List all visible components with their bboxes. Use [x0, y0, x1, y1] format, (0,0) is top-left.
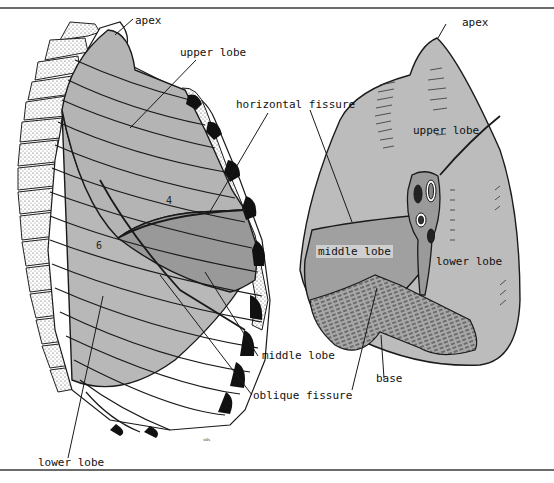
label-horizontal-fissure: horizontal fissure — [236, 98, 355, 111]
label-middle-lobe-left: middle lobe — [262, 349, 335, 362]
label-upper-lobe-left: upper lobe — [180, 46, 246, 59]
label-rib-6: 6 — [96, 240, 102, 251]
label-apex-left: apex — [135, 14, 162, 27]
label-middle-lobe-right: middle lobe — [316, 245, 393, 258]
label-upper-lobe-right: upper lobe — [413, 124, 479, 137]
label-lower-lobe-right: lower lobe — [436, 255, 502, 268]
label-base: base — [376, 372, 403, 385]
label-lower-lobe-left: lower lobe — [38, 456, 104, 469]
signature: vds — [203, 437, 210, 442]
label-apex-right: apex — [462, 16, 489, 29]
lateral-lung-illustration: vds — [0, 0, 554, 483]
label-oblique-fissure: oblique fissure — [253, 389, 352, 402]
label-rib-4: 4 — [166, 195, 172, 206]
